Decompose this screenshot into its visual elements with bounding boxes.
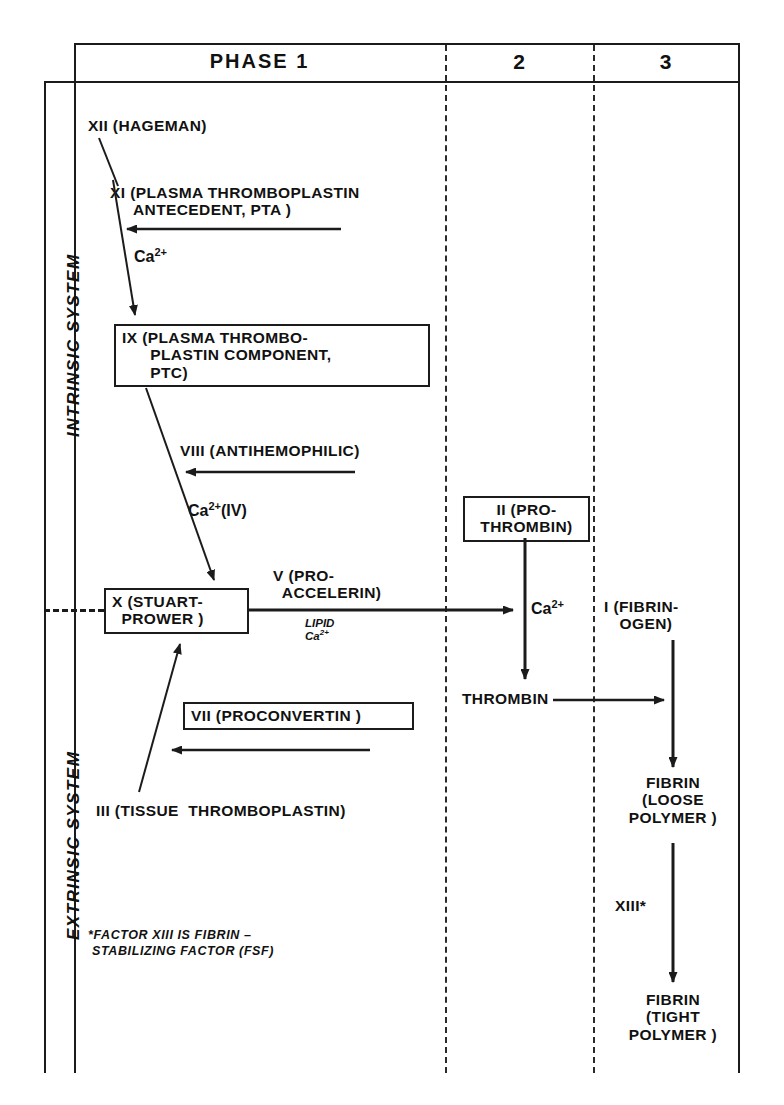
intrinsic-system-label: INTRINSIC SYSTEM (64, 253, 84, 437)
footnote-factor-xiii: *FACTOR XIII IS FIBRIN – STABILIZING FAC… (88, 928, 274, 959)
node-factor-iii: III (TISSUE THROMBOPLASTIN) (96, 802, 346, 819)
node-factor-i: I (FIBRIN- OGEN) (604, 598, 679, 633)
phase-separator-2-3 (593, 45, 595, 1073)
node-factor-xi: XI (PLASMA THROMBOPLASTIN ANTECEDENT, PT… (110, 184, 360, 219)
node-factor-xiii: XIII* (615, 897, 646, 914)
cofactor-lipid-ca: LIPID Ca2+ (305, 617, 334, 642)
outer-right-border (738, 43, 740, 1073)
arrow-xii-to-xi (99, 138, 118, 186)
outer-top-border (44, 81, 740, 83)
phase-3-header: 3 (593, 50, 738, 74)
diagram-canvas: PHASE 1 2 3 INTRINSIC SYSTEM EXTRINSIC S… (0, 0, 784, 1105)
node-fibrin-tight: FIBRIN (TIGHT POLYMER ) (613, 991, 733, 1043)
cofactor-ca-after-xi: Ca2+ (134, 246, 167, 266)
cofactor-ca-phase2: Ca2+ (531, 598, 564, 618)
cofactor-ca-iv-after-viii: Ca2+(IV) (188, 500, 247, 520)
node-factor-v: V (PRO- ACCELERIN) (273, 567, 381, 602)
phase-separator-1-2 (445, 45, 447, 1073)
node-factor-xii: XII (HAGEMAN) (88, 117, 207, 134)
phase-1-header: PHASE 1 (74, 50, 445, 73)
arrow-iii-to-x (139, 644, 180, 792)
system-divider (44, 609, 104, 612)
outer-left-border (44, 81, 46, 1073)
phase-2-header: 2 (445, 50, 593, 74)
node-thrombin: THROMBIN (462, 690, 549, 707)
header-top-border (74, 43, 740, 45)
node-factor-ii: II (PRO- THROMBIN) (463, 496, 590, 542)
node-factor-vii: VII (PROCONVERTIN ) (183, 702, 414, 730)
node-factor-ix: IX (PLASMA THROMBO- PLASTIN COMPONENT, P… (114, 324, 430, 387)
node-fibrin-loose: FIBRIN (LOOSE POLYMER ) (613, 774, 733, 826)
arrow-ix-to-x (146, 388, 214, 580)
node-factor-x: X (STUART- PROWER ) (104, 588, 249, 634)
node-factor-viii: VIII (ANTIHEMOPHILIC) (180, 442, 360, 459)
extrinsic-system-label: EXTRINSIC SYSTEM (64, 751, 84, 940)
